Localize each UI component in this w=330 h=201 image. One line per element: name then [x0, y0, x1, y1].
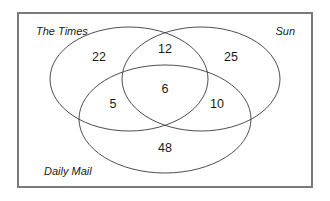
region-count-times-and-mail: 5	[110, 97, 117, 111]
venn-diagram-canvas: The Times Sun Daily Mail 22 12 25 5 6 10…	[0, 0, 330, 201]
region-count-times-only: 22	[92, 50, 106, 64]
region-count-sun-and-mail: 10	[210, 97, 224, 111]
set-label-daily-mail: Daily Mail	[44, 165, 92, 177]
set-label-the-times: The Times	[36, 25, 88, 37]
region-count-mail-only: 48	[158, 141, 172, 155]
diagram-border-frame	[18, 13, 312, 187]
venn-diagram-figure: The Times Sun Daily Mail 22 12 25 5 6 10…	[0, 0, 330, 201]
set-label-sun: Sun	[275, 25, 295, 37]
region-count-all-three: 6	[162, 82, 169, 96]
region-count-times-and-sun: 12	[158, 42, 172, 56]
region-count-sun-only: 25	[224, 50, 238, 64]
